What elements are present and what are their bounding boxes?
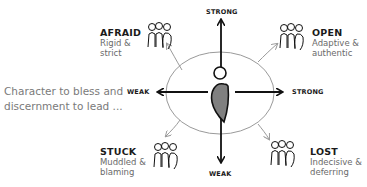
quadrant-open: OPEN Adaptive & authentic [312, 28, 359, 58]
arrow-to-open [258, 44, 277, 62]
caption-text: Character to bless and discernment to le… [4, 84, 123, 114]
axis-label-left: WEAK [127, 88, 149, 96]
group-icon-open [280, 24, 303, 51]
quadrant-stuck: STUCK Muddled & blaming [100, 147, 146, 177]
quadrant-lost: LOST Indecisive & deferring [310, 147, 362, 177]
person-icon [212, 67, 229, 122]
leadership-quadrant-diagram: STRONG WEAK WEAK STRONG AFRAID Rigid & s… [0, 0, 367, 187]
arrow-to-stuck [166, 120, 180, 136]
quadrant-afraid: AFRAID Rigid & strict [100, 28, 141, 58]
quadrant-description: Indecisive & deferring [310, 158, 362, 178]
quadrant-description: Rigid & strict [100, 39, 141, 59]
quadrant-description: Muddled & blaming [100, 158, 146, 178]
axis-label-bottom: WEAK [209, 170, 231, 178]
group-icon-stuck [154, 143, 177, 170]
axis-label-top: STRONG [206, 8, 238, 16]
quadrant-description: Adaptive & authentic [312, 39, 359, 59]
axis-label-right: STRONG [292, 88, 324, 96]
arrow-to-lost [258, 124, 269, 139]
group-icon-lost [271, 141, 294, 168]
